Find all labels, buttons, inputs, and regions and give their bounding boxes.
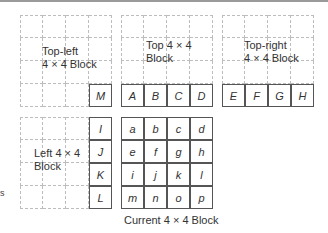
pixel-i: i [121, 163, 144, 186]
pixel-m: m [121, 186, 144, 209]
top-border-line [0, 0, 328, 2]
pixel-L: L [89, 186, 112, 209]
pixel-C: C [167, 84, 190, 107]
grid-cell [66, 84, 89, 107]
pixel-p: p [190, 186, 213, 209]
grid-cell [167, 15, 190, 38]
pixel-j: j [144, 163, 167, 186]
top-right-block-label: Top-right 4 × 4 Block [244, 39, 299, 65]
grid-cell [43, 84, 66, 107]
left-block: Left 4 × 4 Block I J K L [20, 117, 112, 209]
grid-cell [20, 186, 43, 209]
grid-cell [121, 38, 144, 61]
pixel-l: l [190, 163, 213, 186]
top-left-block: Top-left 4 × 4 Block M [20, 15, 112, 107]
grid-cell [222, 15, 245, 38]
grid-cell [20, 15, 43, 38]
current-block-caption: Current 4 × 4 Block [124, 214, 218, 226]
grid-cell [190, 61, 213, 84]
pixel-H: H [291, 84, 314, 107]
grid-cell [20, 84, 43, 107]
pixel-e: e [121, 140, 144, 163]
grid-cell [20, 61, 43, 84]
pixel-I: I [89, 117, 112, 140]
grid-cell [43, 117, 66, 140]
top-right-block: Top-right 4 × 4 Block E F G H [222, 15, 314, 107]
grid-cell [190, 38, 213, 61]
pixel-c: c [167, 117, 190, 140]
grid-cell [222, 38, 245, 61]
pixel-M: M [89, 84, 112, 107]
pixel-A: A [121, 84, 144, 107]
pixel-f: f [144, 140, 167, 163]
top-block: Top 4 × 4 Block A B C D [121, 15, 213, 107]
pixel-g: g [167, 140, 190, 163]
grid-cell [89, 15, 112, 38]
grid-cell [66, 15, 89, 38]
pixel-o: o [167, 186, 190, 209]
pixel-G: G [268, 84, 291, 107]
pixel-b: b [144, 117, 167, 140]
top-left-block-label: Top-left 4 × 4 Block [42, 45, 97, 71]
pixel-h: h [190, 140, 213, 163]
grid-cell [121, 15, 144, 38]
pixel-k: k [167, 163, 190, 186]
pixel-E: E [222, 84, 245, 107]
grid-cell [245, 15, 268, 38]
pixel-n: n [144, 186, 167, 209]
pixel-K: K [89, 163, 112, 186]
grid-cell [20, 117, 43, 140]
grid-cell [20, 38, 43, 61]
grid-cell [43, 15, 66, 38]
grid-cell [66, 117, 89, 140]
grid-cell [291, 15, 314, 38]
grid-cell [43, 186, 66, 209]
grid-cell [121, 61, 144, 84]
pixel-J: J [89, 140, 112, 163]
pixel-B: B [144, 84, 167, 107]
clipped-text-fragment: s [0, 188, 5, 198]
top-block-label: Top 4 × 4 Block [146, 39, 192, 65]
grid-cell [66, 186, 89, 209]
left-block-label: Left 4 × 4 Block [34, 147, 80, 173]
current-block: abcdefghijklmnop [121, 117, 213, 209]
pixel-F: F [245, 84, 268, 107]
pixel-a: a [121, 117, 144, 140]
grid-cell [144, 15, 167, 38]
grid-cell [190, 15, 213, 38]
pixel-D: D [190, 84, 213, 107]
grid-cell [268, 15, 291, 38]
pixel-d: d [190, 117, 213, 140]
grid-cell [222, 61, 245, 84]
